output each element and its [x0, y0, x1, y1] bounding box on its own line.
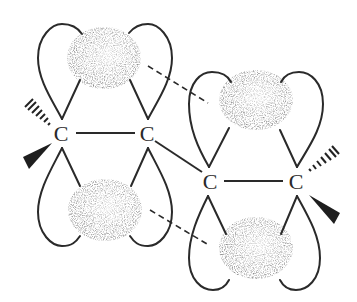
solid-wedge-c4: [309, 195, 340, 224]
lobe-c2-bottom-inner: [131, 148, 148, 186]
bond-c2-c3: [155, 141, 202, 172]
atom-c4: C: [289, 169, 304, 194]
lobe-c1-top-inner: [62, 80, 80, 119]
hashed-wedge-c1: [25, 99, 50, 125]
lobe-c3-bottom-inner: [208, 196, 226, 234]
lobe-c3-top-inner: [209, 128, 229, 167]
hashed-wedge-c4: [309, 146, 339, 171]
bonds: [76, 133, 283, 181]
overlap-line-top: [148, 66, 208, 103]
atom-c1: C: [54, 121, 69, 146]
orbital-diagram: C C C C: [0, 0, 357, 302]
lobe-c1-bottom-inner: [62, 148, 80, 186]
lobe-c4-top-inner: [280, 130, 297, 167]
lobe-c2-top-inner: [130, 80, 148, 119]
atom-c3: C: [203, 169, 218, 194]
lobe-c4-bottom-inner: [281, 196, 297, 234]
solid-wedge-c1: [23, 143, 52, 169]
atom-c2: C: [140, 121, 155, 146]
orbital-clouds: [67, 27, 293, 279]
cloud-bottom-left: [68, 179, 142, 241]
cloud-bottom-right: [219, 217, 293, 279]
